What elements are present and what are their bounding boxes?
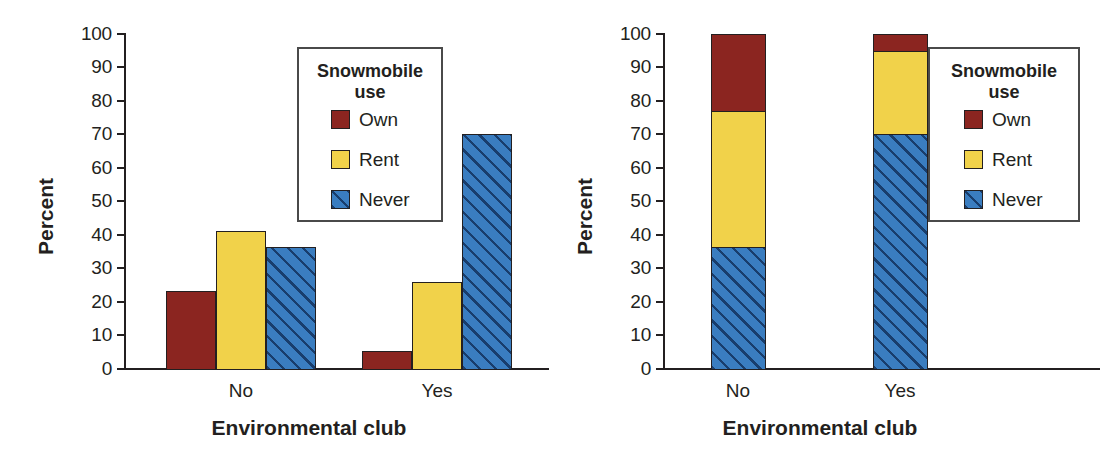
y-tick-40 (117, 234, 126, 236)
y-tick-50 (656, 200, 665, 202)
bar-no-never (266, 247, 316, 370)
legend-swatch-own-icon (331, 110, 350, 129)
x-axis-title-right: Environmental club (675, 416, 965, 440)
x-tick-label-no: No (688, 380, 788, 402)
y-tick-label-100: 100 (605, 24, 651, 43)
y-tick-label-20: 20 (605, 292, 651, 311)
y-tick-20 (656, 301, 665, 303)
y-tick-label-20: 20 (66, 292, 112, 311)
legend-label-rent: Rent (992, 150, 1032, 169)
legend-label-own: Own (992, 110, 1031, 129)
legend-swatch-never-icon (964, 190, 983, 209)
legend-item-own[interactable]: Own (964, 110, 1031, 129)
legend-label-rent: Rent (359, 150, 399, 169)
y-tick-0 (117, 368, 126, 370)
stack-yes-rent (873, 51, 928, 135)
stack-no-rent (711, 111, 766, 248)
y-tick-100 (656, 33, 665, 35)
y-tick-80 (117, 100, 126, 102)
legend-item-never[interactable]: Never (331, 190, 410, 209)
legend-title-line1: Snowmobile (299, 61, 441, 82)
y-tick-20 (117, 301, 126, 303)
y-tick-90 (117, 66, 126, 68)
y-tick-50 (117, 200, 126, 202)
y-tick-90 (656, 66, 665, 68)
stacked-bar-chart-panel: Percent 100 90 80 70 60 50 40 30 20 10 0 (551, 0, 1102, 455)
legend-label-never: Never (359, 190, 410, 209)
bar-yes-own (362, 351, 412, 370)
y-tick-label-10: 10 (66, 325, 112, 344)
y-tick-100 (117, 33, 126, 35)
y-tick-label-70: 70 (66, 124, 112, 143)
y-tick-10 (656, 334, 665, 336)
y-tick-0 (656, 368, 665, 370)
stack-no-own (711, 34, 766, 112)
stack-yes-own (873, 34, 928, 52)
y-tick-label-30: 30 (605, 258, 651, 277)
legend-label-never: Never (992, 190, 1043, 209)
bar-yes-never (462, 134, 512, 370)
y-tick-label-40: 40 (605, 225, 651, 244)
stack-no-never (711, 247, 766, 370)
x-tick-label-yes: Yes (387, 380, 487, 402)
y-tick-70 (117, 133, 126, 135)
legend-right: Snowmobile use Own Rent Never (928, 47, 1080, 222)
legend-item-never[interactable]: Never (964, 190, 1043, 209)
y-tick-30 (656, 267, 665, 269)
y-tick-label-90: 90 (66, 57, 112, 76)
bar-no-rent (216, 231, 266, 370)
legend-item-own[interactable]: Own (331, 110, 398, 129)
legend-title-line2: use (299, 82, 441, 103)
legend-left: Snowmobile use Own Rent Never (297, 47, 443, 222)
y-tick-70 (656, 133, 665, 135)
y-tick-label-10: 10 (605, 325, 651, 344)
y-tick-label-0: 0 (605, 359, 651, 378)
x-axis-title-left: Environmental club (164, 416, 454, 440)
x-tick-label-no: No (191, 380, 291, 402)
legend-swatch-rent-icon (964, 150, 983, 169)
stack-yes-never (873, 134, 928, 370)
y-tick-label-40: 40 (66, 225, 112, 244)
y-tick-label-50: 50 (605, 191, 651, 210)
legend-item-rent[interactable]: Rent (331, 150, 399, 169)
y-tick-label-50: 50 (66, 191, 112, 210)
legend-item-rent[interactable]: Rent (964, 150, 1032, 169)
y-tick-label-100: 100 (66, 24, 112, 43)
y-tick-60 (117, 167, 126, 169)
y-tick-label-70: 70 (605, 124, 651, 143)
y-tick-10 (117, 334, 126, 336)
y-tick-label-0: 0 (66, 359, 112, 378)
bar-no-own (166, 291, 216, 370)
x-tick-label-yes: Yes (850, 380, 950, 402)
y-tick-30 (117, 267, 126, 269)
y-tick-label-80: 80 (605, 91, 651, 110)
legend-swatch-rent-icon (331, 150, 350, 169)
y-axis-title-left: Percent (34, 178, 58, 255)
grouped-bar-chart-panel: Percent 100 90 80 70 60 50 40 30 20 10 0 (0, 0, 551, 455)
legend-swatch-own-icon (964, 110, 983, 129)
y-tick-label-90: 90 (605, 57, 651, 76)
y-tick-60 (656, 167, 665, 169)
y-axis-title-right: Percent (573, 178, 597, 255)
y-tick-label-60: 60 (66, 158, 112, 177)
legend-label-own: Own (359, 110, 398, 129)
legend-title-line2: use (930, 82, 1078, 103)
bar-yes-rent (412, 282, 462, 370)
legend-title-line1: Snowmobile (930, 61, 1078, 82)
legend-swatch-never-icon (331, 190, 350, 209)
y-tick-label-30: 30 (66, 258, 112, 277)
y-tick-40 (656, 234, 665, 236)
y-tick-label-60: 60 (605, 158, 651, 177)
y-tick-80 (656, 100, 665, 102)
y-tick-label-80: 80 (66, 91, 112, 110)
